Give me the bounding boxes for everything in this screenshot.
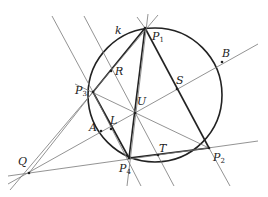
line-p3-q [29,92,93,173]
line-p1-ext [137,17,145,28]
circle-k-label: k [115,24,122,37]
label-p2: P2 [212,151,225,165]
label-s: S [176,74,184,87]
point-p1 [144,27,147,30]
label-b: B [221,47,230,60]
geometry-diagram: P1P2P3P4RSULATBQ k [0,0,268,197]
point-s [176,88,179,91]
point-p4 [128,157,131,160]
line-p3-p2 [75,84,209,148]
point-b [221,61,224,64]
line-p3-down [93,92,141,186]
label-r: R [114,65,123,78]
label-p1: P1 [151,30,164,44]
label-a: A [88,121,97,134]
line-p3-left [52,16,93,92]
point-p3 [92,91,95,94]
point-p2 [208,147,211,150]
label-p3: P3 [74,84,87,98]
point-r [110,70,113,73]
point-l [110,128,113,131]
label-u: U [137,95,147,108]
label-q: Q [18,155,27,168]
side-p1-p4 [129,28,145,158]
point-q [28,172,31,175]
point-u [134,112,137,115]
label-l: L [109,114,117,127]
point-a [100,130,103,133]
